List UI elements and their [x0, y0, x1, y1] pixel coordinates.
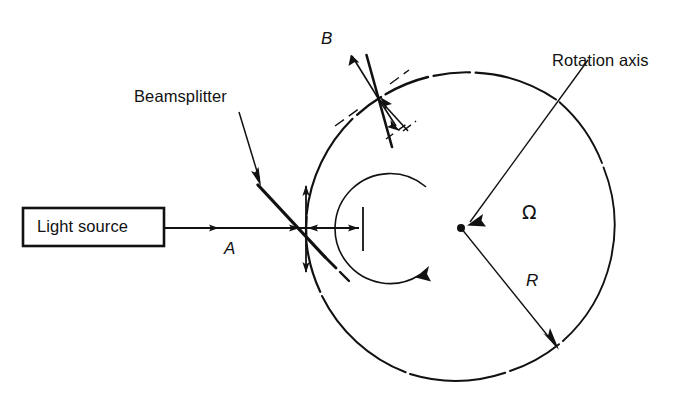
figure-root: Beamsplitter Light source Rotation axis … [0, 0, 692, 409]
split-beams-at-beamsplitter [302, 185, 359, 273]
beamsplitter-leader [239, 112, 261, 186]
radius-label: R [526, 272, 538, 289]
rotation-center-dot [457, 224, 465, 232]
radius-arrow [461, 228, 559, 350]
beam-b-label: B [321, 30, 332, 47]
beamsplitter-label: Beamsplitter [134, 88, 227, 105]
beam-a-label: A [224, 240, 235, 257]
beam-a-arrow [164, 224, 306, 231]
rotation-axis-label: Rotation axis [552, 52, 649, 69]
beam-b-arrow [335, 55, 416, 140]
light-source-label: Light source [37, 218, 128, 235]
angular-velocity-label: Ω [522, 203, 537, 222]
